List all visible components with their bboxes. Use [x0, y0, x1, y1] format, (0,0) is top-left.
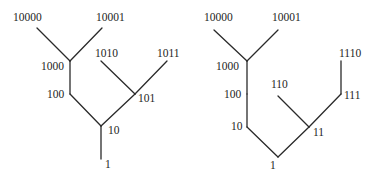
node-label-1011: 1011 — [157, 47, 180, 59]
node-label-101: 101 — [138, 92, 156, 104]
edge-1000-10001 — [247, 30, 278, 61]
edge-1000-10000 — [37, 28, 70, 61]
edge-10-100 — [70, 94, 101, 126]
node-label-10000: 10000 — [204, 11, 233, 23]
left-binary-tree: 1101001011000101010111000010001 — [13, 11, 180, 170]
edge-1-10 — [247, 127, 278, 157]
node-label-100: 100 — [224, 88, 242, 100]
edge-1000-10000 — [214, 30, 247, 61]
node-label-1110: 1110 — [339, 47, 361, 59]
edge-1-11 — [278, 127, 309, 157]
node-label-1: 1 — [270, 159, 276, 171]
node-label-1010: 1010 — [95, 47, 118, 59]
node-label-11: 11 — [313, 126, 324, 138]
right-binary-tree: 11011100110111100011101000010001 — [204, 11, 361, 171]
node-label-10001: 10001 — [272, 11, 301, 23]
node-label-10000: 10000 — [13, 11, 42, 23]
node-label-100: 100 — [47, 88, 65, 100]
node-label-1000: 1000 — [216, 60, 239, 72]
node-label-10001: 10001 — [96, 11, 125, 23]
edge-11-111 — [309, 94, 341, 127]
node-label-110: 110 — [271, 78, 288, 90]
edge-10-101 — [101, 94, 135, 126]
node-label-1: 1 — [105, 158, 111, 170]
tree-diagram-canvas: 1101001011000101010111000010001 11011100… — [0, 0, 374, 181]
node-label-10: 10 — [108, 124, 120, 136]
edge-101-1011 — [135, 61, 167, 94]
edge-101-1010 — [101, 61, 135, 94]
node-label-10: 10 — [231, 120, 243, 132]
node-label-111: 111 — [344, 89, 361, 101]
node-label-1000: 1000 — [41, 60, 64, 72]
edge-11-110 — [278, 96, 309, 127]
